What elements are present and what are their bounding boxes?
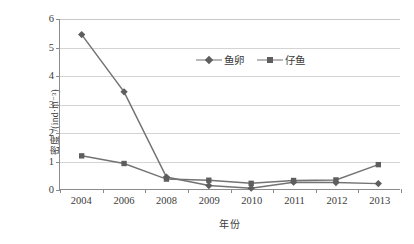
x-tick-label: 2004 [71, 196, 92, 207]
y-tick-label: 1 [49, 156, 54, 167]
legend-entry[interactable]: 仔鱼 [257, 52, 305, 67]
legend-label: 鱼卵 [224, 52, 244, 67]
data-point-square [376, 162, 381, 167]
x-tick-label: 2013 [369, 196, 390, 207]
x-tick-label: 2012 [327, 196, 348, 207]
x-tick-mark [145, 189, 146, 193]
x-tick-mark [188, 189, 189, 193]
x-tick-mark [401, 189, 402, 193]
x-tick-mark [60, 189, 61, 193]
legend-swatch-square-icon [257, 55, 283, 65]
data-point-square [206, 178, 211, 183]
y-tick-label: 4 [49, 71, 54, 82]
series-layer [60, 19, 400, 189]
data-point-square [249, 181, 254, 186]
y-tick-label: 5 [49, 42, 54, 53]
x-tick-label: 2010 [241, 196, 262, 207]
data-point-square [164, 176, 169, 181]
x-tick-label: 2009 [199, 196, 220, 207]
data-point-diamond [375, 180, 382, 187]
series-square [79, 153, 381, 186]
x-tick-mark [273, 189, 274, 193]
legend-label: 仔鱼 [285, 52, 305, 67]
data-point-square [333, 177, 338, 182]
x-tick-mark [103, 189, 104, 193]
data-point-square [121, 161, 126, 166]
x-tick-label: 2008 [156, 196, 177, 207]
y-tick-label: 3 [49, 99, 54, 110]
plot-area: 0123456 20042006200820092010201120122013 [59, 19, 400, 190]
y-tick-label: 6 [49, 14, 54, 25]
legend: 鱼卵仔鱼 [196, 52, 305, 67]
y-tick-label: 0 [49, 185, 54, 196]
x-axis-title: 年份 [59, 216, 400, 231]
x-tick-mark [231, 189, 232, 193]
y-tick-label: 2 [49, 128, 54, 139]
x-tick-mark [316, 189, 317, 193]
legend-swatch-diamond-icon [196, 55, 222, 65]
legend-entry[interactable]: 鱼卵 [196, 52, 244, 67]
x-tick-label: 2011 [284, 196, 305, 207]
data-point-square [291, 178, 296, 183]
x-tick-mark [358, 189, 359, 193]
data-point-square [79, 153, 84, 158]
chart-container: 密度 /(ind·m⁻³) 0123456 200420062008200920… [0, 0, 414, 244]
x-tick-label: 2006 [113, 196, 134, 207]
data-point-diamond [205, 182, 212, 189]
